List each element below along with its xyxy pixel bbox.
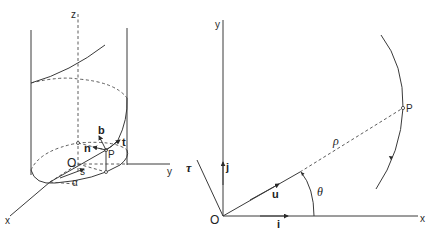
point-p-label-right: P	[406, 103, 413, 114]
t-vector-label: t	[122, 136, 126, 148]
n-vector-label: n	[84, 142, 91, 154]
n-vector-arrow	[93, 147, 106, 150]
axis-point	[77, 142, 80, 145]
radius-dashed	[300, 108, 403, 172]
right-diagram: y x O j i τ u ρ θ P	[186, 19, 425, 230]
j-vector-label: j	[225, 161, 229, 173]
arc-length-label: s	[80, 166, 85, 177]
radius-to-p	[50, 150, 106, 182]
y-axis-label-right: y	[215, 19, 220, 30]
theta-label: θ	[317, 185, 323, 199]
tau-vector-label: τ	[186, 161, 192, 175]
z-axis-label: z	[71, 9, 76, 20]
y-axis-label: y	[167, 166, 172, 177]
alpha-label: α	[72, 177, 78, 188]
origin-label-right: O	[210, 213, 219, 227]
u-vector-label: u	[272, 188, 279, 200]
x-axis	[10, 182, 50, 216]
figure-canvas: z x y O P b n	[0, 0, 433, 236]
point-p-label-left: P	[108, 149, 115, 160]
i-vector-label: i	[277, 218, 280, 230]
theta-arc	[301, 172, 314, 216]
tau-vector-line	[197, 160, 223, 216]
helix-upper-curve	[31, 45, 105, 83]
rho-label: ρ	[332, 134, 339, 148]
trajectory-curve	[376, 35, 403, 189]
x-axis-label-right: x	[420, 213, 425, 224]
x-axis-label: x	[5, 215, 10, 226]
left-diagram: z x y O P b n	[5, 9, 172, 226]
point-p-right	[401, 106, 404, 109]
helix-back-dashed	[31, 78, 127, 98]
b-vector-label: b	[98, 124, 105, 136]
base-point	[105, 171, 108, 174]
